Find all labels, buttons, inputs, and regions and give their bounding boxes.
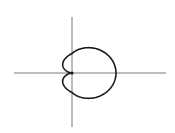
chart xyxy=(0,0,175,133)
cusp-point xyxy=(70,71,73,74)
